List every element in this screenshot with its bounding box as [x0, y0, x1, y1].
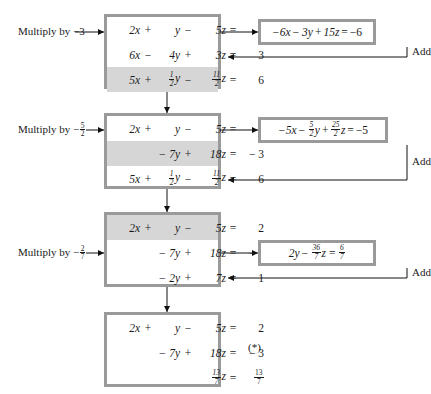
fraction-eleven-halves: 112	[212, 170, 221, 186]
term-x: 2x	[114, 123, 140, 135]
add-label-1: Add	[412, 45, 431, 57]
side-equation-box-1: −6x − 3y + 15z = −6	[258, 19, 376, 45]
multiply-label-1: Multiply by −3	[18, 25, 85, 37]
operator: +	[140, 24, 156, 36]
term-x: 5x	[114, 74, 140, 86]
term-x: 5x	[114, 173, 140, 185]
term-x: 6x	[114, 49, 140, 61]
system-box-2: 2x + y − 5z = 2 − 7y + 18z = − 3 5x + 12…	[104, 113, 221, 189]
term-z: 5z	[196, 123, 226, 135]
term-z: 5z	[196, 222, 226, 234]
operator: −	[180, 173, 196, 185]
equals: =	[226, 322, 240, 334]
side-eq-rhs: −5	[356, 124, 368, 136]
side-eq-b-var: y	[315, 124, 320, 136]
term-z: 5z	[196, 322, 226, 334]
equals: =	[347, 124, 354, 136]
rhs-value: − 3	[240, 148, 266, 160]
equals: =	[226, 173, 240, 185]
equals: =	[226, 49, 240, 61]
operator: −	[293, 26, 300, 38]
star-marker-text: (*)	[248, 341, 261, 353]
add-label-1-text: Add	[412, 45, 431, 57]
term-y: − 7y	[156, 247, 180, 259]
rhs-value: 137	[240, 369, 266, 385]
equals: =	[341, 26, 348, 38]
operator: −	[180, 322, 196, 334]
operator: +	[140, 123, 156, 135]
operator: +	[140, 74, 156, 86]
equation-row: 137z = 137	[107, 365, 218, 390]
equation-row: 2x + y − 5z = 2	[107, 315, 218, 340]
fraction-six-sevenths: 67	[339, 244, 345, 260]
equals: =	[226, 148, 240, 160]
system-box-4-final: 2x + y − 5z = 2 − 7y + 18z = − 3 137z = …	[104, 312, 221, 387]
operator: +	[180, 347, 196, 359]
operator: +	[180, 272, 196, 284]
add-label-3: Add	[412, 266, 431, 278]
equation-row: 2x + y − 5z = 2	[107, 116, 218, 141]
term-y: 12y	[156, 71, 180, 87]
operator: −	[180, 74, 196, 86]
term-z: 18z	[196, 247, 226, 259]
side-eq-b: 3y	[302, 26, 313, 38]
side-eq-c: 15z	[323, 26, 339, 38]
term-z: 7z	[196, 272, 226, 284]
multiply-label-3-text: Multiply by −	[18, 246, 79, 258]
operator: +	[140, 222, 156, 234]
multiply-label-2-text: Multiply by −	[18, 123, 79, 135]
operator: −	[299, 124, 306, 136]
operator: +	[180, 247, 196, 259]
term-y: 12y	[156, 170, 180, 186]
term-x: 2x	[114, 24, 140, 36]
term-x: 2x	[114, 322, 140, 334]
term-y: y	[156, 24, 180, 36]
operator: +	[322, 124, 329, 136]
side-eq-a: 2y	[289, 247, 300, 259]
fraction-thirtysix-sevenths: 367	[312, 244, 322, 260]
fraction-thirteen-sevenths: 137	[212, 369, 222, 385]
equals: =	[226, 74, 240, 86]
operator: +	[140, 322, 156, 334]
equation-row: 5x + 12y − 112z = 6	[107, 166, 218, 191]
term-y: 4y	[156, 49, 180, 61]
equation-row-highlighted: 5x + 12y − 112z = 6	[107, 67, 218, 92]
equation-row: − 7y + 18z = − 3	[107, 240, 218, 265]
term-x: 2x	[114, 222, 140, 234]
equals: =	[226, 123, 240, 135]
add-label-2: Add	[412, 155, 431, 167]
equation-row: 6x − 4y + 3z = 3	[107, 42, 218, 67]
fraction-twentyfive-halves: 252	[331, 121, 341, 137]
system-box-3: 2x + y − 5z = 2 − 7y + 18z = − 3 − 2y + …	[104, 212, 221, 287]
equals: =	[226, 372, 240, 384]
equals: =	[226, 24, 240, 36]
equation-row: − 2y + 7z = 1	[107, 265, 218, 290]
multiply-label-2: Multiply by −52	[18, 122, 86, 138]
side-eq-a: −5x	[278, 124, 297, 136]
add-label-2-text: Add	[412, 155, 431, 167]
rhs-value: 6	[240, 173, 266, 185]
equals: =	[329, 247, 336, 259]
fraction-five-halves: 52	[309, 121, 315, 137]
operator: +	[180, 148, 196, 160]
fraction-five-halves: 52	[80, 122, 86, 138]
rhs-value: 1	[240, 272, 266, 284]
term-z: 18z	[196, 148, 226, 160]
term-y: y	[156, 123, 180, 135]
multiply-label-1-text: Multiply by −3	[18, 25, 85, 37]
equals: =	[226, 347, 240, 359]
operator: +	[180, 49, 196, 61]
term-z: 5z	[196, 24, 226, 36]
equation-row: 2x + y − 5z = 2	[107, 17, 218, 42]
operator: −	[180, 123, 196, 135]
term-y: − 2y	[156, 272, 180, 284]
fraction-one-half: 12	[169, 170, 175, 186]
equation-row-highlighted: 2x + y − 5z = 2	[107, 215, 218, 240]
term-y: y	[156, 322, 180, 334]
operator: +	[140, 173, 156, 185]
equation-row: − 7y + 18z = − 3	[107, 340, 218, 365]
equals: =	[226, 272, 240, 284]
term-z: 112z	[196, 71, 226, 87]
term-z: 137z	[196, 369, 226, 385]
rhs-value: 2	[240, 322, 266, 334]
